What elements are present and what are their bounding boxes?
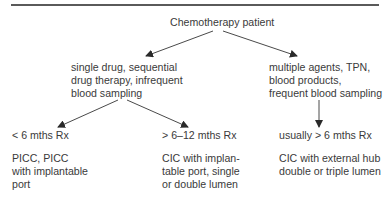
arrow-single-to-long-term bbox=[127, 100, 188, 127]
root-node: Chemotherapy patient bbox=[170, 16, 290, 29]
leaf-duration-short: < 6 mths Rx bbox=[12, 129, 112, 142]
leaf-device-cic-external: CIC with external hub double or triple l… bbox=[279, 152, 389, 178]
branch-single-drug: single drug, sequential drug therapy, in… bbox=[71, 61, 191, 100]
branch-multiple-agents: multiple agents, TPN, blood products, fr… bbox=[269, 61, 390, 100]
leaf-duration-usually: usually > 6 mths Rx bbox=[279, 129, 389, 142]
arrow-single-to-short-term bbox=[58, 100, 118, 127]
leaf-device-picc: PICC, PICC with implantable port bbox=[12, 152, 122, 191]
leaf-duration-long: > 6–12 mths Rx bbox=[162, 129, 262, 142]
arrow-root-to-single-drug bbox=[146, 31, 213, 56]
arrow-root-to-multiple-agents bbox=[223, 31, 297, 56]
leaf-device-cic-implantable: CIC with implan- table port, single or d… bbox=[162, 152, 272, 191]
